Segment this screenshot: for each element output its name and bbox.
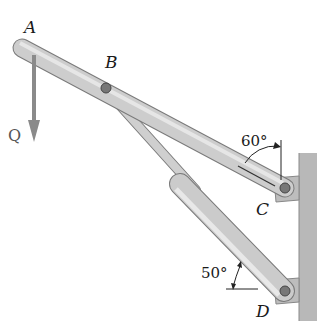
load-arrow-q: [28, 55, 40, 142]
mechanism-diagram: A B C D Q 60° 50°: [0, 0, 317, 321]
pin-b: [101, 83, 111, 93]
label-q: Q: [8, 126, 21, 145]
lever-abc: [20, 43, 285, 188]
label-b: B: [104, 52, 118, 72]
pin-d: [280, 286, 290, 296]
label-c: C: [256, 199, 269, 219]
label-a: A: [22, 17, 36, 37]
label-angle-50: 50°: [201, 264, 228, 282]
cylinder-bd: [106, 90, 284, 295]
pin-c: [280, 183, 290, 193]
wall: [299, 153, 317, 321]
label-d: D: [255, 301, 270, 321]
label-angle-60: 60°: [241, 132, 268, 150]
